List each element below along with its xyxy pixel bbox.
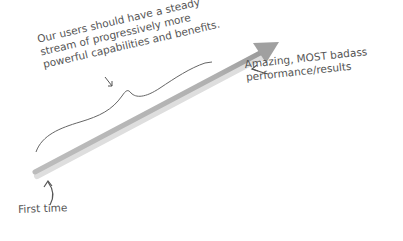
stream-pointer-arrow-icon <box>105 77 112 86</box>
growth-diagram: Our users should have a steady stream of… <box>0 0 403 241</box>
capability-stream-squiggle <box>36 62 212 152</box>
first-time-label: First time <box>18 201 68 216</box>
progress-arrow-shadow <box>37 57 262 176</box>
first-time-annotation: First time <box>18 201 68 216</box>
